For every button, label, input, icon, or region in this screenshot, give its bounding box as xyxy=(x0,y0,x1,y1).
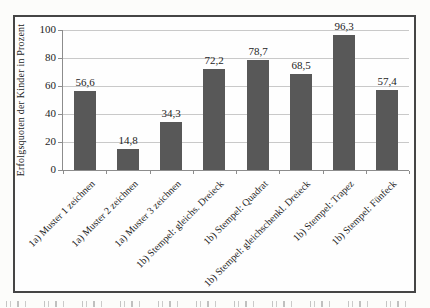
bar-value-label: 14,8 xyxy=(98,134,158,146)
x-axis-tick xyxy=(106,171,107,174)
x-axis-tick xyxy=(150,171,151,174)
bar xyxy=(74,91,96,170)
x-axis-tick xyxy=(409,171,410,174)
x-axis-tick xyxy=(323,171,324,174)
y-axis-tick xyxy=(58,170,62,171)
y-tick-label: 60 xyxy=(26,79,56,91)
y-axis-tick xyxy=(58,58,62,59)
bar-value-label: 96,3 xyxy=(314,20,374,32)
plot-area: 56,614,834,372,278,768,596,357,4 xyxy=(62,30,409,171)
y-axis-tick xyxy=(58,142,62,143)
y-tick-label: 40 xyxy=(26,107,56,119)
gridline xyxy=(63,114,409,115)
bar-value-label: 78,7 xyxy=(228,45,288,57)
bar-value-label: 57,4 xyxy=(357,75,417,87)
chart-frame: Erfolgsquoten der Kinder in Prozent 56,6… xyxy=(13,15,416,293)
y-axis-tick xyxy=(58,114,62,115)
bar-value-label: 34,3 xyxy=(141,107,201,119)
bar-value-label: 56,6 xyxy=(55,76,115,88)
y-tick-label: 100 xyxy=(26,23,56,35)
bar xyxy=(247,60,269,170)
y-tick-label: 20 xyxy=(26,135,56,147)
bar xyxy=(333,35,355,170)
caption-cutoff-text xyxy=(6,301,424,307)
x-axis-tick xyxy=(279,171,280,174)
y-tick-label: 0 xyxy=(26,163,56,175)
bar xyxy=(160,122,182,170)
scanned-figure: Erfolgsquoten der Kinder in Prozent 56,6… xyxy=(0,0,430,308)
x-axis-tick xyxy=(63,171,64,174)
x-category-labels: 1a) Muster 1 zeichnen1a) Muster 2 zeichn… xyxy=(62,175,408,290)
y-tick-label: 80 xyxy=(26,51,56,63)
x-axis-tick xyxy=(366,171,367,174)
bar-value-label: 68,5 xyxy=(271,59,331,71)
bar xyxy=(117,149,139,170)
x-category-label: 1b) Stempel: gleichs. Dreieck xyxy=(134,178,226,270)
x-axis-tick xyxy=(193,171,194,174)
bar xyxy=(290,74,312,170)
y-axis-tick xyxy=(58,30,62,31)
bar xyxy=(203,69,225,170)
x-axis-tick xyxy=(236,171,237,174)
bar xyxy=(376,90,398,170)
